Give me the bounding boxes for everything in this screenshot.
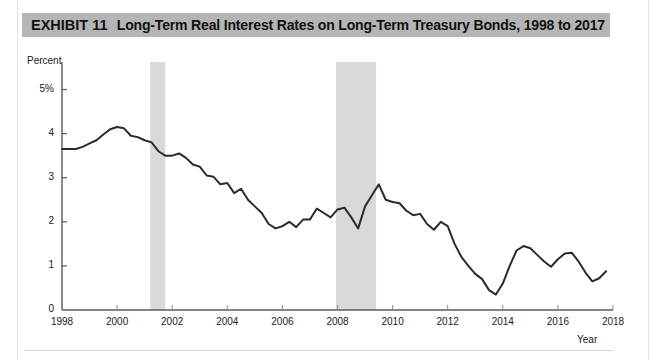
- line-chart: [0, 0, 666, 360]
- recession-2001-band: [150, 62, 165, 310]
- recession-2008-2009-band: [336, 62, 376, 310]
- y-tick-label: 3: [28, 171, 54, 182]
- y-tick-label: 1: [28, 259, 54, 270]
- x-tick-label: 2012: [428, 316, 468, 327]
- x-tick-label: 2006: [262, 316, 302, 327]
- x-tick-label: 2008: [318, 316, 358, 327]
- x-tick-label: 2018: [593, 316, 633, 327]
- x-tick-label: 2002: [152, 316, 192, 327]
- x-tick-label: 2016: [538, 316, 578, 327]
- exhibit-page: EXHIBIT 11 Long-Term Real Interest Rates…: [0, 0, 666, 360]
- x-tick-label: 1998: [42, 316, 82, 327]
- recession-shading-layer: [150, 62, 376, 310]
- y-tick-label: 5%: [28, 83, 54, 94]
- y-tick-label: 2: [28, 215, 54, 226]
- x-tick-label: 2010: [373, 316, 413, 327]
- y-tick-label: 4: [28, 127, 54, 138]
- x-tick-label: 2004: [207, 316, 247, 327]
- x-tick-label: 2000: [97, 316, 137, 327]
- interest-rate-series-line: [62, 127, 606, 295]
- data-line-layer: [62, 127, 606, 295]
- x-tick-label: 2014: [483, 316, 523, 327]
- y-tick-label: 0: [28, 303, 54, 314]
